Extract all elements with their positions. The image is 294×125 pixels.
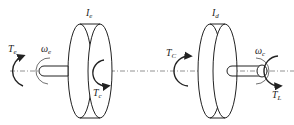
engine-torque-label: Te (8, 43, 17, 56)
driveline-speed-label: ωc (255, 45, 266, 58)
engine-inertia-label: Ie (85, 7, 92, 20)
load-torque-label: TL (272, 89, 282, 102)
engine-inertia-disk (68, 24, 112, 118)
drivetrain-diagram: Ie Te ωe Tc Id TC ωc TL (0, 0, 294, 125)
engine-speed-label: ωe (41, 43, 51, 56)
engine-shaft (39, 66, 68, 76)
driveline-inertia-label: Id (211, 7, 219, 20)
clutch-torque-label-right: TC (166, 47, 177, 60)
